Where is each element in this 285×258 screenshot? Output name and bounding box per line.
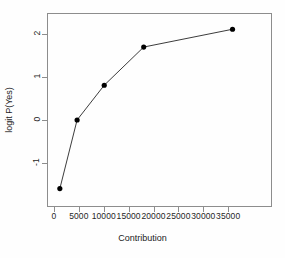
x-axis-title: Contribution bbox=[0, 233, 285, 243]
x-tick-label: 25000 bbox=[166, 211, 190, 221]
data-point bbox=[141, 44, 146, 49]
data-point bbox=[75, 117, 80, 122]
y-tick-mark bbox=[42, 163, 47, 164]
x-tick-label: 5000 bbox=[69, 211, 88, 221]
plot-frame bbox=[47, 13, 272, 207]
x-tick-label: 30000 bbox=[191, 211, 215, 221]
series-markers bbox=[57, 27, 235, 192]
y-tick-mark bbox=[42, 34, 47, 35]
data-point bbox=[102, 83, 107, 88]
y-tick-label-text: 2 bbox=[33, 31, 43, 36]
x-tick-label: 15000 bbox=[117, 211, 141, 221]
x-tick-label: 0 bbox=[52, 211, 57, 221]
series-line-logit bbox=[60, 29, 233, 188]
y-tick-label: 2 bbox=[0, 28, 40, 38]
y-tick-label-text: 0 bbox=[33, 117, 43, 122]
y-tick-label-text: 1 bbox=[33, 74, 43, 79]
data-series-svg bbox=[48, 14, 271, 206]
y-tick-label: 0 bbox=[0, 114, 40, 124]
chart-figure: logit P(Yes) 050001000015000200002500030… bbox=[0, 0, 285, 258]
y-tick-label: 1 bbox=[0, 71, 40, 81]
data-point bbox=[57, 186, 62, 191]
y-tick-mark bbox=[42, 77, 47, 78]
y-axis-title-wrapper: logit P(Yes) bbox=[2, 13, 16, 207]
y-axis-title: logit P(Yes) bbox=[2, 13, 16, 207]
data-point bbox=[230, 27, 235, 32]
y-tick-mark bbox=[42, 120, 47, 121]
x-tick-label: 35000 bbox=[216, 211, 240, 221]
y-tick-label-text: -1 bbox=[31, 158, 41, 166]
x-tick-label: 20000 bbox=[141, 211, 165, 221]
plot-area bbox=[48, 14, 271, 206]
x-tick-label: 10000 bbox=[92, 211, 116, 221]
y-tick-label: -1 bbox=[0, 157, 40, 167]
